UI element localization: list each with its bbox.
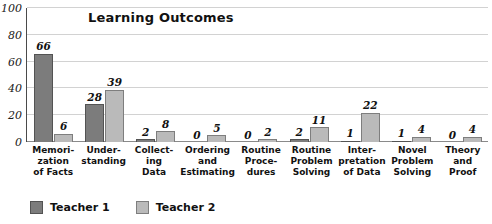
y-tick-label: 20 <box>0 110 22 121</box>
bar-value-label: 1 <box>347 128 354 139</box>
bar-slot: 0 <box>238 8 257 142</box>
bar-slot: 1 <box>392 8 411 142</box>
bar-value-label: 22 <box>363 100 378 111</box>
bar-group: 211 <box>284 8 335 142</box>
bar-value-label: 0 <box>193 130 200 141</box>
y-tick-label: 40 <box>0 83 22 94</box>
bar-value-label: 8 <box>162 119 169 130</box>
x-tick-label: Memori- zation of Facts <box>28 145 78 178</box>
x-tick-label: Theory and Proof <box>438 145 488 178</box>
y-tick-label: 80 <box>0 29 22 40</box>
bar-groups: 66628392805022111221404 <box>28 8 488 142</box>
x-tick-label: Collect- ing Data <box>129 145 179 178</box>
bar[interactable] <box>34 54 53 142</box>
bar-value-label: 39 <box>107 77 122 88</box>
bar[interactable] <box>341 141 360 142</box>
legend-item[interactable]: Teacher 2 <box>136 201 216 214</box>
y-tick-label: 0 <box>0 137 22 148</box>
bar-value-label: 66 <box>36 41 51 52</box>
bar[interactable] <box>105 90 124 142</box>
bar-value-label: 6 <box>60 121 67 132</box>
bar-slot: 4 <box>412 8 431 142</box>
bar-value-label: 2 <box>264 127 271 138</box>
bar-value-label: 0 <box>244 130 251 141</box>
bar-group: 28 <box>130 8 181 142</box>
bar-slot: 6 <box>54 8 73 142</box>
bar[interactable] <box>136 139 155 142</box>
bar-slot: 22 <box>361 8 380 142</box>
bar-value-label: 2 <box>142 127 149 138</box>
x-axis-labels: Memori- zation of FactsUnder- standingCo… <box>28 145 488 178</box>
bar[interactable] <box>207 135 226 142</box>
bar[interactable] <box>310 127 329 142</box>
legend-item[interactable]: Teacher 1 <box>30 201 110 214</box>
bar[interactable] <box>361 113 380 142</box>
chart-legend: Teacher 1Teacher 2 <box>30 201 215 214</box>
bar-value-label: 28 <box>87 92 102 103</box>
x-tick-label: Ordering and Estimating <box>179 145 236 178</box>
bar-value-label: 4 <box>469 124 476 135</box>
legend-swatch-icon <box>30 201 43 214</box>
x-tick-label: Inter- pretation of Data <box>337 145 387 178</box>
bar[interactable] <box>290 139 309 142</box>
bar[interactable] <box>258 139 277 142</box>
legend-label: Teacher 1 <box>50 202 110 213</box>
x-tick-label: Routine Problem Solving <box>286 145 336 178</box>
bar-slot: 8 <box>156 8 175 142</box>
bar-slot: 5 <box>207 8 226 142</box>
bar[interactable] <box>463 137 482 142</box>
bar-slot: 11 <box>310 8 329 142</box>
bar[interactable] <box>156 131 175 142</box>
bar[interactable] <box>392 141 411 142</box>
bar-group: 666 <box>28 8 79 142</box>
x-tick-label: Under- standing <box>78 145 128 178</box>
x-tick-label: Routine Proce- dures <box>236 145 286 178</box>
bar-slot: 28 <box>85 8 104 142</box>
bar-slot: 1 <box>341 8 360 142</box>
y-tick-label: 60 <box>0 56 22 67</box>
bar-slot: 4 <box>463 8 482 142</box>
bar-value-label: 0 <box>449 130 456 141</box>
bar-slot: 66 <box>34 8 53 142</box>
bar-slot: 2 <box>258 8 277 142</box>
bar-slot: 0 <box>443 8 462 142</box>
bar-group: 14 <box>386 8 437 142</box>
bar-group: 02 <box>232 8 283 142</box>
bar-slot: 0 <box>187 8 206 142</box>
x-tick-label: Novel Problem Solving <box>387 145 437 178</box>
bar[interactable] <box>412 137 431 142</box>
bar-chart: 020406080100 Learning Outcomes 666283928… <box>0 0 492 224</box>
bar-value-label: 11 <box>312 115 327 126</box>
bar-slot: 39 <box>105 8 124 142</box>
bar-value-label: 4 <box>418 124 425 135</box>
bar-value-label: 1 <box>398 128 405 139</box>
bar-group: 122 <box>335 8 386 142</box>
bar[interactable] <box>54 134 73 142</box>
bar-group: 04 <box>437 8 488 142</box>
y-tick-label: 100 <box>0 3 22 14</box>
legend-swatch-icon <box>136 201 149 214</box>
bar-slot: 2 <box>136 8 155 142</box>
bar-value-label: 2 <box>295 127 302 138</box>
bar-slot: 2 <box>290 8 309 142</box>
legend-label: Teacher 2 <box>156 202 216 213</box>
bar-value-label: 5 <box>213 123 220 134</box>
bar[interactable] <box>85 104 104 142</box>
bar-group: 05 <box>181 8 232 142</box>
bar-group: 2839 <box>79 8 130 142</box>
